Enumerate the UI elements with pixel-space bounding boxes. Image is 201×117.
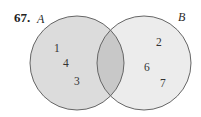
set-a-label: A (36, 12, 45, 26)
a-only-element: 4 (63, 57, 69, 69)
b-only-element: 7 (160, 77, 166, 89)
a-only-element: 3 (74, 75, 80, 87)
b-only-element: 2 (156, 36, 162, 48)
a-only-element: 1 (54, 42, 60, 54)
problem-number: 67. (14, 10, 30, 25)
venn-diagram: 67. A B 1 4 3 2 6 7 (0, 0, 201, 117)
set-b-label: B (178, 10, 186, 24)
b-only-element: 6 (144, 61, 150, 73)
